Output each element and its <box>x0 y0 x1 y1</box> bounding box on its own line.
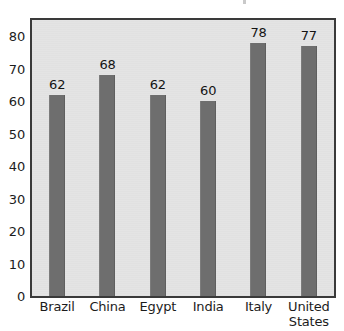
bar-united-states[interactable] <box>301 46 317 296</box>
x-tick-label-line: States <box>288 314 330 329</box>
bar-value-italy: 78 <box>250 25 266 40</box>
bar-slot-brazil: 62 <box>32 20 82 296</box>
bar-slot-egypt: 62 <box>133 20 183 296</box>
bar-slot-united-states: 77 <box>284 20 334 296</box>
y-tick-label-50: 50 <box>9 126 25 141</box>
bar-value-brazil: 62 <box>49 77 65 92</box>
x-tick-label-egypt: Egypt <box>140 299 177 314</box>
bar-slot-india: 60 <box>183 20 233 296</box>
bar-slot-italy: 78 <box>233 20 283 296</box>
x-tick-label-china: China <box>89 299 125 314</box>
bar-egypt[interactable] <box>150 95 166 296</box>
x-tick-label-brazil: Brazil <box>40 299 75 314</box>
bar-value-united-states: 77 <box>301 28 317 43</box>
y-tick-label-60: 60 <box>9 94 25 109</box>
bar-slot-china: 68 <box>82 20 132 296</box>
x-tick-label-line: China <box>89 299 125 314</box>
bars-layer: 626862607877 <box>32 20 334 296</box>
y-tick-label-30: 30 <box>9 191 25 206</box>
x-tick-label-india: India <box>193 299 224 314</box>
bar-value-china: 68 <box>99 57 115 72</box>
x-axis: BrazilChinaEgyptIndiaItalyUnitedStates <box>32 299 334 331</box>
scan-artifact <box>243 0 246 4</box>
bar-india[interactable] <box>200 101 216 296</box>
x-tick-label-line: India <box>193 299 224 314</box>
y-tick-label-0: 0 <box>17 289 25 304</box>
bar-china[interactable] <box>99 75 115 296</box>
y-tick-label-10: 10 <box>9 256 25 271</box>
x-tick-label-italy: Italy <box>245 299 272 314</box>
bar-italy[interactable] <box>250 43 266 296</box>
bar-brazil[interactable] <box>49 95 65 296</box>
bar-value-egypt: 62 <box>150 77 166 92</box>
y-tick-label-70: 70 <box>9 61 25 76</box>
y-tick-label-20: 20 <box>9 224 25 239</box>
y-axis: 01020304050607080 <box>0 18 28 298</box>
x-tick-label-line: Egypt <box>140 299 177 314</box>
y-tick-label-40: 40 <box>9 159 25 174</box>
x-tick-label-united-states: UnitedStates <box>288 299 330 329</box>
x-tick-label-line: Italy <box>245 299 272 314</box>
bar-chart: 01020304050607080 626862607877 BrazilChi… <box>0 0 344 331</box>
y-tick-label-80: 80 <box>9 29 25 44</box>
bar-value-india: 60 <box>200 83 216 98</box>
x-tick-label-line: United <box>288 299 330 314</box>
x-tick-label-line: Brazil <box>40 299 75 314</box>
